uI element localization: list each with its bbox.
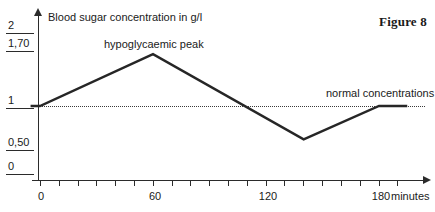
y-tick-label-2: 2 [6, 20, 34, 34]
y-tick-text-0: 0 [6, 161, 16, 173]
y-tick-rule-050 [6, 150, 34, 151]
y-tick-rule-2 [6, 33, 34, 34]
x-tick-mark [78, 181, 79, 186]
x-tick-mark [397, 181, 398, 186]
x-tick-mark [115, 181, 116, 186]
x-tick-mark [96, 181, 97, 186]
y-axis-arrow-icon [34, 8, 42, 16]
x-tick-mark [303, 181, 304, 186]
y-tick-label-050: 0,50 [6, 137, 34, 151]
x-tick-mark [172, 181, 173, 186]
x-tick-label-0: 0 [38, 190, 44, 202]
figure-container: Figure 8 Blood sugar concentration in g/… [0, 0, 435, 212]
x-tick-mark [134, 181, 135, 186]
figure-caption: Figure 8 [379, 14, 427, 30]
y-tick-text-2: 2 [6, 20, 16, 32]
x-tick-mark [322, 181, 323, 186]
hypoglycaemic-peak-annotation: hypoglycaemic peak [104, 38, 204, 50]
x-tick-mark [59, 181, 60, 186]
x-tick-label-60: 60 [149, 190, 161, 202]
x-tick-mark [379, 181, 380, 186]
normal-concentrations-annotation: normal concentrations [326, 87, 434, 99]
y-axis-line [38, 14, 39, 181]
x-tick-mark [341, 181, 342, 186]
y-tick-text-050: 0,50 [6, 137, 31, 149]
y-tick-label-0: 0 [6, 161, 34, 175]
y-tick-text-1: 1 [6, 95, 16, 107]
x-tick-mark [228, 181, 229, 186]
y-tick-rule-0 [6, 174, 34, 175]
x-axis-arrow-icon [423, 176, 431, 184]
x-tick-mark [284, 181, 285, 186]
y-tick-label-170: 1,70 [6, 38, 34, 52]
x-tick-label-120: 120 [259, 190, 277, 202]
y-tick-text-170: 1,70 [6, 38, 31, 50]
y-tick-rule-170 [6, 51, 34, 52]
x-tick-label-180: 180 [372, 190, 390, 202]
y-axis-title: Blood sugar concentration in g/l [48, 11, 202, 23]
normal-concentration-reference-line [40, 106, 425, 108]
y-tick-rule-1 [6, 108, 34, 109]
x-tick-mark [40, 181, 41, 186]
x-tick-mark [266, 181, 267, 186]
y-tick-label-1: 1 [6, 95, 34, 109]
x-tick-mark [360, 181, 361, 186]
x-tick-mark [190, 181, 191, 186]
x-tick-mark [209, 181, 210, 186]
x-axis-unit-label: minutes [391, 190, 430, 202]
x-tick-mark [153, 181, 154, 186]
x-tick-mark [247, 181, 248, 186]
